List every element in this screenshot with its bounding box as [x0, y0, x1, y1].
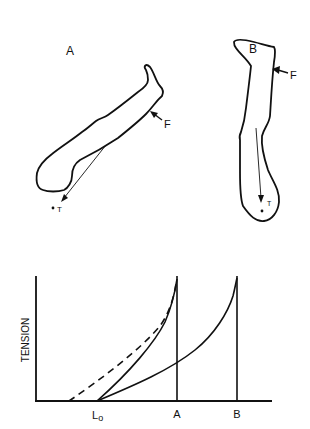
tendon-line-b — [256, 128, 261, 198]
tendon-label-b: T — [267, 200, 272, 207]
x-tick-a: A — [173, 408, 181, 420]
solid-curve-b — [97, 278, 237, 401]
panel-b-label: B — [249, 42, 257, 56]
dashed-curve — [69, 284, 176, 401]
x-tick-l0-sub: o — [98, 413, 103, 423]
limb-outline-a — [37, 65, 164, 191]
force-arrow-line-b — [278, 70, 288, 73]
force-label-a: F — [164, 118, 171, 130]
tension-length-graph: TENSION Lo A B — [20, 276, 272, 423]
tendon-label-a: T — [57, 205, 62, 214]
x-tick-b: B — [233, 408, 240, 420]
panel-a-label: A — [66, 44, 74, 58]
tendon-arrowhead-b — [258, 195, 264, 203]
figure: A T F B T F TENSION Lo A B — [0, 0, 310, 429]
tendon-point-a — [52, 207, 55, 210]
tendon-arrowhead-a — [61, 194, 68, 202]
tendon-line-a — [64, 145, 106, 198]
panel-a: A T F — [37, 0, 171, 214]
x-tick-l0: Lo — [92, 409, 103, 423]
y-axis-label: TENSION — [20, 318, 31, 362]
panel-b: B T F — [234, 40, 297, 221]
force-label-b: F — [290, 69, 297, 81]
tendon-arrow-a — [64, 0, 106, 198]
tendon-point-b — [261, 210, 264, 213]
